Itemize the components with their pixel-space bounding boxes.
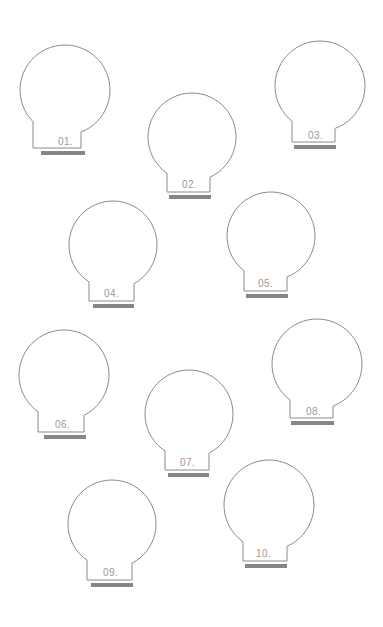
balloon-shape-10: 10. (0, 0, 383, 627)
balloon-outline-10 (224, 460, 314, 561)
diagram-canvas: 01.02.03.04.05.06.07.08.09.10. (0, 0, 383, 627)
balloon-label-10: 10. (256, 548, 271, 559)
balloon-base-bar-10 (245, 564, 287, 568)
